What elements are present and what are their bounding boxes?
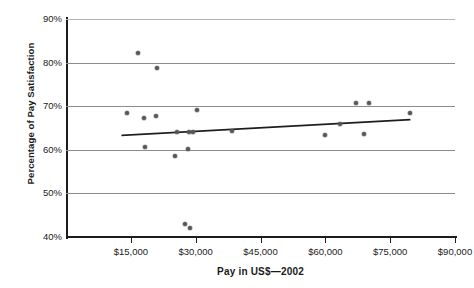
x-axis-tick-label: $60,000 bbox=[290, 246, 360, 257]
gridline bbox=[66, 193, 455, 194]
data-point bbox=[125, 111, 129, 115]
x-axis-tick-mark bbox=[196, 238, 197, 243]
x-axis-tick-label: $15,000 bbox=[96, 246, 166, 257]
y-axis-tick-label: 60% bbox=[18, 144, 62, 155]
y-axis-tick-label: 90% bbox=[18, 13, 62, 24]
data-point bbox=[143, 145, 147, 149]
y-axis-tick-label: 40% bbox=[18, 231, 62, 242]
data-point bbox=[136, 51, 140, 55]
x-axis-title: Pay in US$—2002 bbox=[66, 266, 455, 277]
gridline bbox=[66, 150, 455, 151]
y-axis-tick-labels: 40%50%60%70%80%90% bbox=[14, 0, 62, 288]
x-axis-tick-mark bbox=[131, 238, 132, 243]
x-axis-tick-mark bbox=[261, 238, 262, 243]
data-point bbox=[367, 101, 371, 105]
data-point bbox=[155, 66, 159, 70]
gridline bbox=[66, 19, 455, 20]
gridline bbox=[66, 63, 455, 64]
scatter-chart-figure: Percentage of Pay Satisfaction 40%50%60%… bbox=[0, 0, 474, 288]
data-point bbox=[191, 130, 195, 134]
x-axis-tick-label: $45,000 bbox=[226, 246, 296, 257]
y-axis-tick-label: 70% bbox=[18, 100, 62, 111]
y-axis-tick-label: 80% bbox=[18, 57, 62, 68]
x-axis-tick-label: $75,000 bbox=[355, 246, 425, 257]
data-point bbox=[408, 111, 412, 115]
trendline bbox=[66, 19, 455, 237]
x-axis-tick-mark bbox=[325, 238, 326, 243]
y-axis-tick-label: 50% bbox=[18, 187, 62, 198]
plot-area bbox=[66, 19, 455, 237]
x-axis-tick-label: $90,000 bbox=[420, 246, 474, 257]
data-point bbox=[354, 101, 358, 105]
data-point bbox=[323, 133, 327, 137]
x-axis-tick-mark bbox=[455, 238, 456, 243]
data-point bbox=[154, 114, 158, 118]
x-axis-tick-mark bbox=[390, 238, 391, 243]
x-axis-tick-label: $30,000 bbox=[161, 246, 231, 257]
data-point bbox=[362, 132, 366, 136]
gridline bbox=[66, 106, 455, 107]
